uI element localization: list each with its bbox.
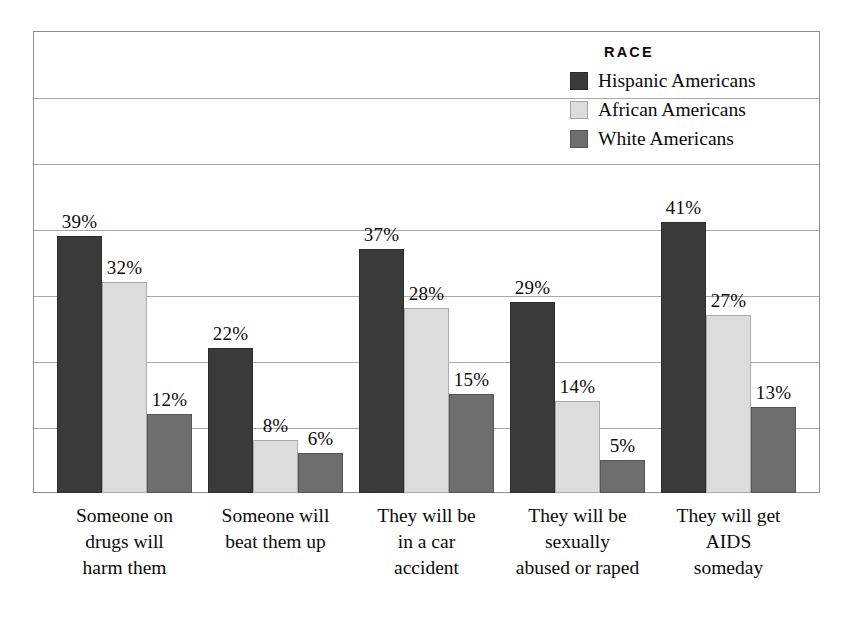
chart-figure: 39%32%12%22%8%6%37%28%15%29%14%5%41%27%1… bbox=[0, 0, 852, 625]
category-label-line: AIDS bbox=[646, 529, 811, 555]
legend: RACE Hispanic AmericansAfrican Americans… bbox=[570, 44, 810, 153]
category-label-line: drugs will bbox=[42, 529, 207, 555]
category-label-line: in a car bbox=[344, 529, 509, 555]
legend-item-label: African Americans bbox=[598, 99, 746, 121]
category-label: They will getAIDSsomeday bbox=[646, 503, 811, 581]
gridline bbox=[34, 428, 819, 429]
legend-item[interactable]: White Americans bbox=[570, 124, 810, 153]
category-label-line: abused or raped bbox=[495, 555, 660, 581]
category-label-line: Someone will bbox=[193, 503, 358, 529]
legend-swatch-icon bbox=[570, 101, 588, 119]
category-label: Someone willbeat them up bbox=[193, 503, 358, 555]
category-label-line: accident bbox=[344, 555, 509, 581]
category-axis-labels: Someone ondrugs willharm themSomeone wil… bbox=[33, 503, 820, 599]
gridline bbox=[34, 230, 819, 231]
category-label: Someone ondrugs willharm them bbox=[42, 503, 207, 581]
category-label-line: Someone on bbox=[42, 503, 207, 529]
legend-item-label: White Americans bbox=[598, 128, 734, 150]
category-label: They will besexuallyabused or raped bbox=[495, 503, 660, 581]
category-label-line: beat them up bbox=[193, 529, 358, 555]
category-label-line: They will be bbox=[344, 503, 509, 529]
category-label-line: They will get bbox=[646, 503, 811, 529]
legend-swatch-icon bbox=[570, 72, 588, 90]
gridline bbox=[34, 296, 819, 297]
legend-swatch-icon bbox=[570, 130, 588, 148]
legend-items: Hispanic AmericansAfrican AmericansWhite… bbox=[570, 66, 810, 153]
gridline bbox=[34, 362, 819, 363]
category-label-line: someday bbox=[646, 555, 811, 581]
legend-title: RACE bbox=[604, 44, 810, 60]
legend-item-label: Hispanic Americans bbox=[598, 70, 756, 92]
category-label-line: sexually bbox=[495, 529, 660, 555]
category-label-line: They will be bbox=[495, 503, 660, 529]
legend-item[interactable]: Hispanic Americans bbox=[570, 66, 810, 95]
category-label-line: harm them bbox=[42, 555, 207, 581]
category-label: They will bein a caraccident bbox=[344, 503, 509, 581]
gridline bbox=[34, 164, 819, 165]
legend-item[interactable]: African Americans bbox=[570, 95, 810, 124]
